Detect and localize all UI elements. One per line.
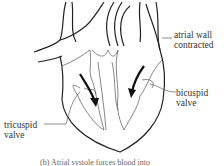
flow-arrows [80, 66, 144, 107]
label-tricuspid-valve: tricuspid valve [4, 120, 37, 140]
label-bicuspid-valve: bicuspid valve [176, 88, 208, 108]
label-atrial-wall: atrial wall contracted [174, 30, 214, 50]
figure-caption: (b) Atrial systole forces blood into [40, 158, 150, 166]
heart-diagram [0, 0, 224, 166]
heart-outer-wall [60, 2, 164, 152]
